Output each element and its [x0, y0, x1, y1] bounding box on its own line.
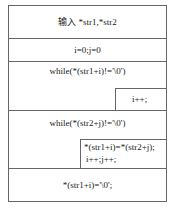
terminate-text: *(str1+i)='\0'; — [8, 180, 167, 191]
loop1-body-text: i++; — [132, 94, 147, 105]
init-text: i=0;j=0 — [8, 45, 167, 56]
loop2-condition: while(*(str2+j)!='\0') — [8, 118, 167, 129]
input-text: 输入 *str1,*str2 — [8, 17, 167, 28]
loop1-condition: while(*(str1+i)!='\0') — [8, 66, 167, 77]
loop2-body-line2: i++;j++; — [86, 154, 116, 165]
loop2-body-line1: *(str1+i)=*(str2+j); — [84, 142, 155, 153]
